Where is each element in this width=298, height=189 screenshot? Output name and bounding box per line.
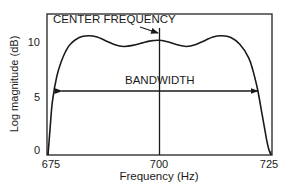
y-tick-label-10: 10 [26,37,40,48]
bandwidth-label: BANDWIDTH [125,75,195,87]
bandpass-response-chart: CENTER FREQUENCY BANDWIDTH 10 5 0 675 70… [0,0,298,189]
y-axis-label: Log magnitude (dB) [8,36,20,133]
x-axis-label: Frequency (Hz) [119,171,198,183]
x-tick-label-675: 675 [42,159,60,170]
x-tick-label-725: 725 [260,159,278,170]
y-tick-label-0: 0 [26,145,40,156]
center-frequency-label: CENTER FREQUENCY [53,14,176,26]
center-frequency-arrow [140,27,158,33]
y-tick-label-5: 5 [26,92,40,103]
x-tick-label-700: 700 [150,159,168,170]
